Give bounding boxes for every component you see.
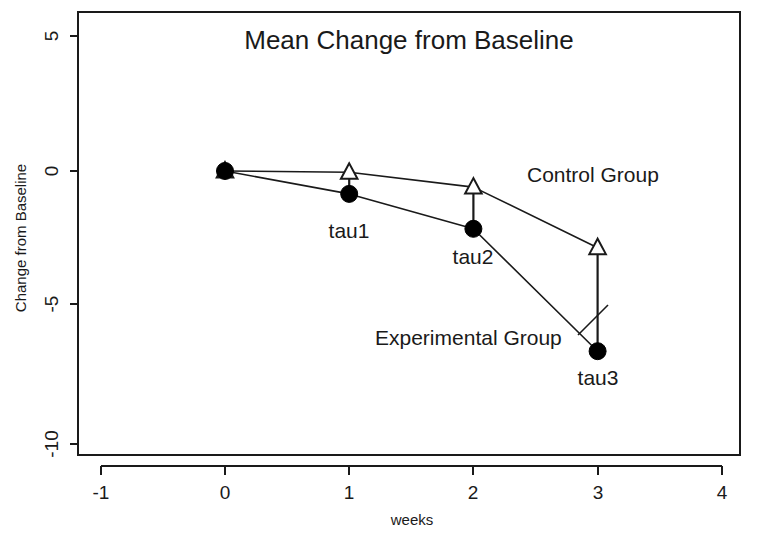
annotation-tau3: tau3 — [578, 366, 619, 389]
series-line-experimental — [225, 171, 598, 351]
annotation-control-group: Control Group — [527, 163, 659, 186]
plot-frame — [78, 12, 740, 455]
x-tick-label-0: 0 — [220, 482, 231, 503]
experimental-marker-week-2 — [465, 220, 482, 237]
chart-canvas: 5 0 -5 -10 Change from Baseline -1 0 1 2… — [0, 0, 761, 539]
series-layer — [225, 171, 598, 351]
x-axis: -1 0 1 2 3 4 weeks — [93, 466, 728, 528]
x-axis-title: weeks — [390, 511, 434, 528]
x-tick-label-2: 2 — [468, 482, 479, 503]
y-tick-label-0: 0 — [41, 166, 62, 177]
x-tick-label-neg1: -1 — [93, 482, 110, 503]
annotation-experimental-group: Experimental Group — [375, 326, 562, 349]
annotation-tau1: tau1 — [329, 219, 370, 242]
y-tick-label-neg10: -10 — [41, 430, 62, 457]
annotation-tau2: tau2 — [453, 245, 494, 268]
control-marker-week-1 — [341, 163, 358, 178]
control-marker-week-3 — [589, 239, 606, 254]
y-axis: 5 0 -5 -10 Change from Baseline — [12, 31, 78, 458]
x-tick-label-4: 4 — [717, 482, 728, 503]
experimental-group-leader — [578, 305, 608, 335]
y-axis-title: Change from Baseline — [12, 164, 29, 312]
experimental-marker-week-3 — [589, 343, 606, 360]
chart-figure: 5 0 -5 -10 Change from Baseline -1 0 1 2… — [0, 0, 761, 539]
chart-title: Mean Change from Baseline — [244, 25, 574, 55]
y-tick-label-neg5: -5 — [41, 296, 62, 313]
x-tick-label-1: 1 — [344, 482, 355, 503]
leader-lines — [578, 305, 608, 335]
experimental-marker-week-0 — [217, 163, 234, 180]
y-tick-label-5: 5 — [41, 31, 62, 42]
x-tick-label-3: 3 — [593, 482, 604, 503]
experimental-marker-week-1 — [341, 185, 358, 202]
